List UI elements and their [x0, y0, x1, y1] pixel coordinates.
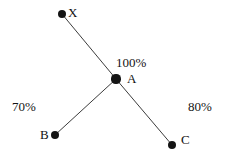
node-label-x: X	[68, 6, 77, 19]
node-label-b: B	[40, 128, 49, 141]
node-label-a: A	[127, 72, 136, 85]
edge-label-70-percent: 70%	[12, 100, 36, 113]
node-label-c: C	[181, 133, 190, 146]
node-dot-a	[111, 74, 120, 83]
edge-x-a	[62, 14, 116, 79]
edge-b-a	[55, 79, 116, 135]
edge-label-100-percent: 100%	[116, 56, 146, 69]
edge-label-80-percent: 80%	[188, 100, 212, 113]
diagram-canvas: X A B C 100% 70% 80%	[0, 0, 228, 160]
edge-a-c	[116, 79, 172, 145]
